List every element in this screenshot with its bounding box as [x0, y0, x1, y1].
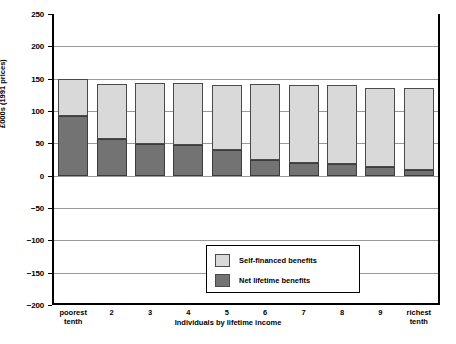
legend-swatch-self-financed	[215, 254, 230, 267]
bar-segment-net-lifetime	[327, 164, 357, 176]
bar-segment-net-lifetime	[58, 116, 88, 176]
y-tick-label: −150	[6, 269, 44, 278]
bar-segment-net-lifetime	[289, 163, 319, 175]
bar-column	[58, 14, 88, 303]
bar-segment-net-lifetime	[365, 167, 395, 175]
x-tick-label-line: richest	[389, 308, 449, 317]
y-tick-label: 50	[6, 139, 44, 148]
bar-column	[135, 14, 165, 303]
legend-item-self-financed: Self-financed benefits	[215, 253, 317, 267]
y-tick-label: −100	[6, 236, 44, 245]
bar-segment-net-lifetime	[250, 160, 280, 176]
bar-segment-self-financed	[135, 83, 165, 144]
legend-item-net-lifetime: Net lifetime benefits	[215, 273, 310, 287]
stacked-bar-chart: £000s (1991 prices) 250200150100500−50−1…	[0, 0, 456, 344]
y-tick-label: −200	[6, 301, 44, 310]
chart-legend: Self-financed benefits Net lifetime bene…	[206, 245, 360, 293]
bar-segment-self-financed	[97, 84, 127, 139]
y-tick-mark	[48, 305, 52, 306]
bar-column	[404, 14, 434, 303]
bar-segment-self-financed	[404, 88, 434, 169]
bar-column	[365, 14, 395, 303]
legend-label-self-financed: Self-financed benefits	[239, 256, 317, 265]
bar-segment-self-financed	[212, 85, 242, 150]
bar-segment-net-lifetime	[135, 144, 165, 176]
x-axis-title: Individuals by lifetime income	[0, 318, 456, 327]
bar-segment-self-financed	[173, 83, 203, 145]
legend-swatch-net-lifetime	[215, 274, 230, 287]
bar-segment-net-lifetime	[97, 139, 127, 176]
y-tick-label: 150	[6, 75, 44, 84]
legend-label-net-lifetime: Net lifetime benefits	[239, 276, 310, 285]
bar-segment-self-financed	[250, 84, 280, 160]
bar-segment-self-financed	[58, 79, 88, 116]
y-tick-label: 100	[6, 107, 44, 116]
bar-segment-self-financed	[327, 85, 357, 164]
y-tick-label: 250	[6, 10, 44, 19]
bar-segment-self-financed	[365, 88, 395, 168]
y-tick-label: 200	[6, 42, 44, 51]
bar-segment-self-financed	[289, 85, 319, 163]
bar-column	[173, 14, 203, 303]
y-tick-label: −50	[6, 204, 44, 213]
y-tick-label: 0	[6, 172, 44, 181]
bar-segment-net-lifetime	[212, 150, 242, 176]
bar-column	[97, 14, 127, 303]
bar-segment-net-lifetime	[173, 145, 203, 175]
bar-segment-net-lifetime	[404, 170, 434, 176]
